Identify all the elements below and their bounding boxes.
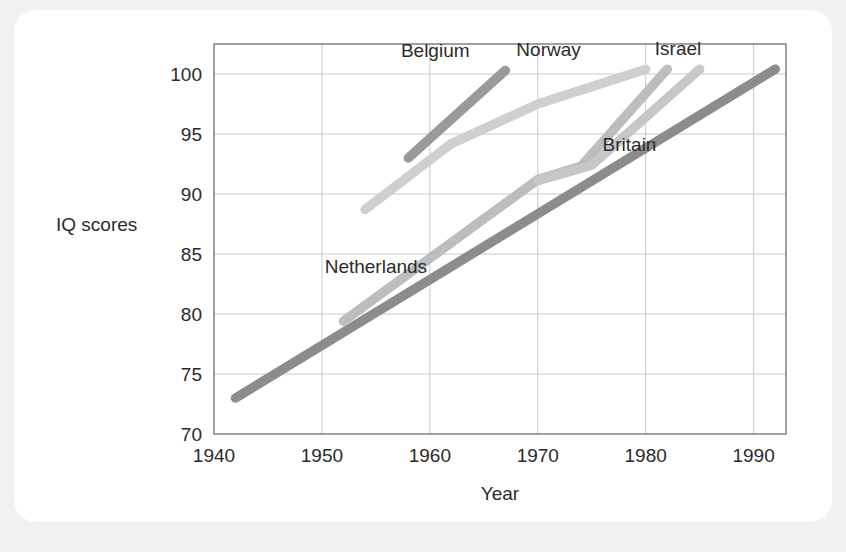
- x-tick-1960: 1960: [409, 445, 451, 466]
- x-tick-1990: 1990: [732, 445, 774, 466]
- series-label-belgium: Belgium: [401, 40, 470, 61]
- x-tick-1950: 1950: [301, 445, 343, 466]
- y-tick-95: 95: [181, 124, 202, 145]
- y-tick-85: 85: [181, 244, 202, 265]
- y-tick-100: 100: [170, 64, 202, 85]
- y-tick-90: 90: [181, 184, 202, 205]
- series-label-israel: Israel: [655, 38, 701, 59]
- series-line-norway: [344, 69, 668, 321]
- x-axis-tick-labels: 194019501960197019801990: [193, 445, 775, 466]
- figure-card: 707580859095100 194019501960197019801990…: [14, 10, 832, 522]
- y-axis-tick-labels: 707580859095100: [170, 64, 202, 445]
- series-label-netherlands: Netherlands: [325, 256, 427, 277]
- series-label-britain: Britain: [603, 134, 657, 155]
- x-tick-1970: 1970: [517, 445, 559, 466]
- iq-scores-line-chart: 707580859095100 194019501960197019801990…: [14, 10, 832, 522]
- series-label-norway: Norway: [516, 39, 581, 60]
- y-axis-title: IQ scores: [56, 214, 137, 235]
- series-lines: [236, 69, 776, 398]
- x-axis-title: Year: [481, 483, 520, 504]
- y-tick-80: 80: [181, 304, 202, 325]
- x-tick-1940: 1940: [193, 445, 235, 466]
- y-tick-75: 75: [181, 364, 202, 385]
- y-tick-70: 70: [181, 424, 202, 445]
- x-tick-1980: 1980: [625, 445, 667, 466]
